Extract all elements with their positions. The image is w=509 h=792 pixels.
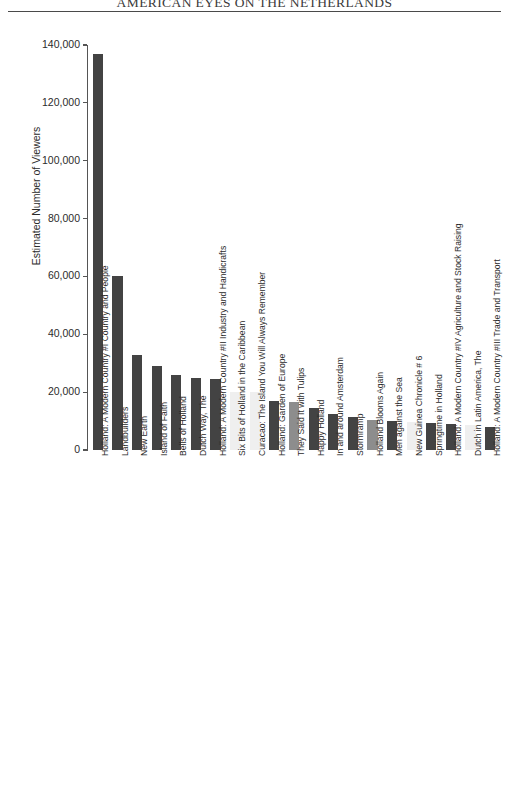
y-tick-label: 60,000	[8, 269, 80, 281]
x-tick-label: Happy Holland	[317, 400, 326, 456]
x-tick-label: Six Bits of Holland in the Caribbean	[238, 321, 247, 456]
y-tick-label: 20,000	[8, 385, 80, 397]
y-tick-label: 140,000	[8, 38, 80, 50]
x-tick-label: Holland: A Modern Country #III Trade and…	[493, 259, 502, 456]
x-tick-label: Landbuilders	[121, 407, 130, 456]
y-tick-label: 100,000	[8, 154, 80, 166]
x-tick-label: Curacao: The Island You Will Always Reme…	[258, 272, 267, 456]
running-head: AMERICAN EYES ON THE NETHERLANDS	[0, 0, 509, 13]
x-tick-label: Holland: A Modern Country #II Industry a…	[219, 246, 228, 456]
x-tick-label: Springtime in Holland	[435, 374, 444, 456]
y-tick-mark	[83, 392, 87, 393]
running-head-text: AMERICAN EYES ON THE NETHERLANDS	[117, 0, 393, 11]
y-tick-label: 120,000	[8, 96, 80, 108]
y-tick-mark	[83, 449, 87, 450]
x-tick-label: Dutch Way, The	[199, 396, 208, 457]
x-tick-label: Holland: A Modern Country #IV Agricultur…	[454, 223, 463, 456]
x-axis-labels: Holland: A Modern Country #I Country and…	[88, 456, 500, 716]
y-tick-label: 0	[8, 443, 80, 455]
y-tick-mark	[83, 102, 87, 103]
y-tick-mark	[83, 44, 87, 45]
x-tick-label: Holland Blooms Again	[376, 372, 385, 456]
x-tick-label: Island of Faith	[160, 402, 169, 456]
bar-chart: Estimated Number of Viewers 140,000120,0…	[0, 20, 509, 720]
y-axis-title: Estimated Number of Viewers	[30, 96, 42, 296]
running-head-rule	[8, 11, 501, 12]
y-tick-mark	[83, 276, 87, 277]
y-tick-mark	[83, 160, 87, 161]
x-tick-label: In and around Amsterdam	[336, 357, 345, 456]
x-tick-label: Holland: A Modern Country #I Country and…	[101, 265, 110, 456]
y-tick-label: 80,000	[8, 212, 80, 224]
x-tick-label: Bells of Holland	[179, 396, 188, 456]
y-tick-label: 40,000	[8, 327, 80, 339]
x-tick-label: They Said It with Tulips	[297, 368, 306, 456]
x-tick-label: Stormramp	[356, 414, 365, 457]
y-tick-mark	[83, 334, 87, 335]
x-tick-label: Men against the Sea	[395, 377, 404, 456]
x-tick-label: New Guinea Chronicle # 6	[415, 356, 424, 456]
x-tick-label: Holland: Garden of Europe	[278, 354, 287, 456]
x-tick-label: New Earth	[140, 416, 149, 456]
y-tick-mark	[83, 218, 87, 219]
x-tick-label: Dutch in Latin America, The	[474, 351, 483, 456]
